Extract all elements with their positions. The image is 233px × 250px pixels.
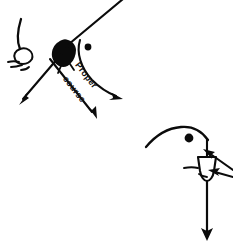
windward-sail-curve bbox=[18, 19, 21, 49]
leeward-boat-tiller bbox=[199, 174, 207, 177]
lower-mark-dot bbox=[185, 134, 194, 143]
incoming-arrow-upper-shaft bbox=[209, 153, 233, 170]
approach-line bbox=[63, 0, 129, 49]
diagram-canvas: Proper course bbox=[0, 0, 233, 250]
hand-finger-bottom bbox=[21, 67, 29, 70]
leeward-boat-boom bbox=[184, 167, 198, 168]
windward-boat-hull bbox=[52, 39, 76, 67]
hand-finger-upper bbox=[8, 61, 19, 62]
leeward-sail-curve bbox=[146, 127, 208, 147]
sailing-diagram: Proper course bbox=[0, 0, 233, 250]
sail-line-arrow-shaft bbox=[23, 44, 70, 99]
hand-finger-lower bbox=[11, 65, 22, 67]
upper-mark-dot bbox=[85, 44, 92, 51]
